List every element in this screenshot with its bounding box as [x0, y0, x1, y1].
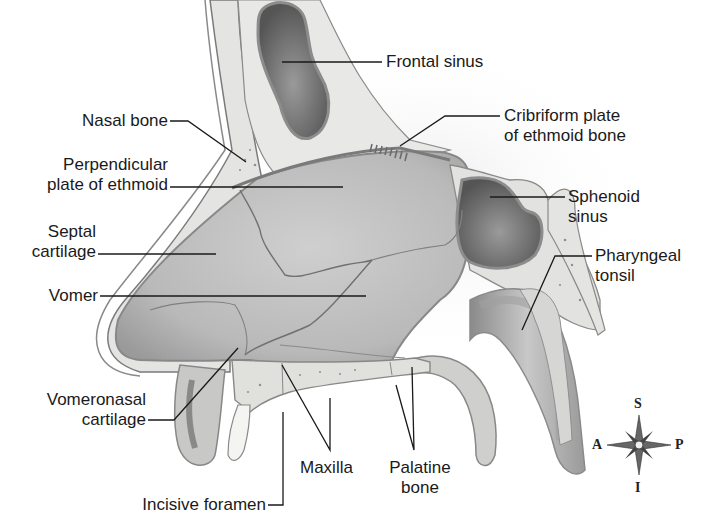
label-frontal-sinus: Frontal sinus [386, 52, 483, 72]
nasal-septum-diagram: Frontal sinus Cribriform plate of ethmoi… [0, 0, 712, 528]
label-nasal-bone: Nasal bone [64, 111, 168, 131]
label-sphenoid-sinus: Sphenoid sinus [568, 187, 640, 227]
compass-superior-label: S [634, 396, 642, 412]
compass-rose-icon [607, 415, 671, 475]
compass-posterior-label: P [675, 437, 684, 453]
label-pharyngeal-tonsil: Pharyngeal tonsil [595, 246, 681, 286]
upper-lip [175, 365, 225, 465]
label-septal-cartilage: Septal cartilage [10, 222, 96, 262]
label-vomer: Vomer [20, 286, 98, 306]
incisor-tooth [228, 405, 250, 460]
label-palatine-bone: Palatine bone [380, 458, 460, 498]
label-maxilla: Maxilla [300, 458, 353, 478]
label-perpendicular-plate: Perpendicular plate of ethmoid [14, 155, 168, 195]
label-incisive-foramen: Incisive foramen [100, 495, 266, 515]
label-cribriform-plate: Cribriform plate of ethmoid bone [504, 106, 626, 146]
compass-anterior-label: A [592, 437, 602, 453]
compass-inferior-label: I [635, 480, 640, 496]
hard-palate [232, 358, 430, 412]
label-vomeronasal-cartilage: Vomeronasal cartilage [8, 390, 146, 430]
